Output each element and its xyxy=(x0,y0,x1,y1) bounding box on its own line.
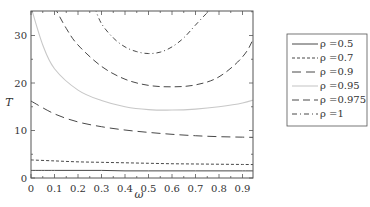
x-axis: 00.10.20.30.40.50.60.70.80.9 xyxy=(28,11,251,194)
x-tick-label: 0.2 xyxy=(70,183,86,194)
x-tick-label: 0.7 xyxy=(188,183,204,194)
legend-label: ρ =0.5 xyxy=(320,38,353,49)
x-tick-label: 0.1 xyxy=(47,183,63,194)
series-line xyxy=(31,7,266,110)
y-tick-label: 0 xyxy=(21,173,27,184)
y-tick-label: 30 xyxy=(14,30,27,41)
y-axis-label: T xyxy=(5,96,14,109)
x-tick-label: 0 xyxy=(28,183,34,194)
x-tick-label: 0.3 xyxy=(94,183,110,194)
x-tick-label: 0.6 xyxy=(164,183,180,194)
legend-label: ρ =1 xyxy=(320,108,344,119)
plot-frame xyxy=(31,11,253,178)
x-axis-label: ω xyxy=(135,188,144,201)
chart: 00.10.20.30.40.50.60.70.80.9 0102030 ω T… xyxy=(0,0,370,207)
series-line xyxy=(31,170,266,171)
y-tick-label: 20 xyxy=(14,78,27,89)
series-line xyxy=(31,101,266,138)
y-tick-label: 10 xyxy=(14,125,27,136)
legend-label: ρ =0.9 xyxy=(320,66,353,77)
x-tick-label: 0.8 xyxy=(211,183,227,194)
series-line xyxy=(31,160,266,165)
x-tick-label: 0.4 xyxy=(117,183,133,194)
legend-label: ρ =0.975 xyxy=(320,94,366,105)
series-line xyxy=(94,7,214,54)
x-tick-label: 0.9 xyxy=(235,183,251,194)
series-line xyxy=(55,7,259,87)
y-axis: 0102030 xyxy=(14,12,253,184)
legend-label: ρ =0.7 xyxy=(320,52,353,63)
legend-label: ρ =0.95 xyxy=(320,80,360,91)
series-layer xyxy=(31,7,266,171)
legend: ρ =0.5ρ =0.7ρ =0.9ρ =0.95ρ =0.975ρ =1 xyxy=(287,34,367,126)
